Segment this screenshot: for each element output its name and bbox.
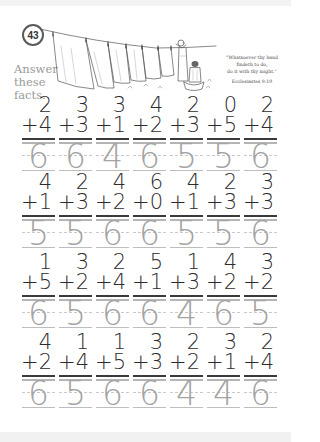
answer-tracing-digit: 5 [61, 379, 90, 409]
plus-sign: + [132, 350, 150, 374]
addend-bottom-value: 5 [39, 270, 52, 294]
addend-bottom: +1 [206, 352, 237, 373]
answer-tracing-digit: 6 [24, 379, 53, 409]
rope-icon [40, 29, 216, 48]
addend-bottom-value: 2 [76, 270, 89, 294]
addend-bottom-value: 2 [261, 270, 274, 294]
quote-line: “Whatsoever thy hand [216, 54, 288, 61]
addition-problem: 2+35 [207, 172, 237, 250]
answer-tracing-digit: 6 [61, 142, 90, 172]
plus-sign: + [21, 350, 39, 374]
addition-problem: 2+46 [244, 95, 274, 173]
addend-bottom: +0 [132, 192, 163, 213]
addition-problem: 4+26 [22, 332, 52, 410]
addend-bottom: +1 [95, 115, 126, 136]
addition-problem: 3+36 [133, 332, 163, 410]
addition-problem: 1+56 [96, 332, 126, 410]
answer-tracing-digit: 6 [98, 379, 127, 409]
addition-problem: 4+26 [96, 172, 126, 250]
plus-sign: + [58, 270, 76, 294]
addition-problem: 2+35 [170, 95, 200, 173]
quote-line: do it with thy might.” [216, 68, 288, 75]
answer-tracing-digit: 5 [209, 142, 238, 172]
addition-problem: 2+46 [244, 332, 274, 410]
plus-sign: + [206, 350, 224, 374]
plus-sign: + [206, 190, 224, 214]
plus-sign: + [243, 350, 261, 374]
plus-sign: + [58, 190, 76, 214]
addend-bottom: +4 [21, 115, 52, 136]
addend-bottom: +3 [206, 192, 237, 213]
addend-bottom-value: 2 [113, 190, 126, 214]
answer-tracing-digit: 6 [209, 299, 238, 329]
addend-bottom: +2 [21, 352, 52, 373]
addend-bottom-value: 2 [150, 113, 163, 137]
addend-bottom: +3 [58, 115, 89, 136]
plus-sign: + [95, 350, 113, 374]
answer-tracing-digit: 6 [135, 219, 164, 249]
addend-bottom-value: 1 [187, 190, 200, 214]
addend-bottom-value: 3 [224, 190, 237, 214]
addend-bottom: +4 [58, 352, 89, 373]
addend-bottom-value: 5 [113, 350, 126, 374]
scripture-quote: “Whatsoever thy hand findeth to do, do i… [216, 54, 288, 85]
addend-bottom: +3 [58, 192, 89, 213]
addend-bottom-value: 4 [261, 113, 274, 137]
addend-bottom: +5 [95, 352, 126, 373]
quote-line: findeth to do, [216, 61, 288, 68]
answer-tracing-digit: 6 [246, 379, 275, 409]
addition-problem: 4+26 [133, 95, 163, 173]
addend-bottom-value: 4 [76, 350, 89, 374]
answer-tracing-digit: 4 [209, 379, 238, 409]
addend-bottom: +5 [21, 272, 52, 293]
answer-tracing-digit: 5 [172, 219, 201, 249]
addend-bottom-value: 4 [39, 113, 52, 137]
plus-sign: + [58, 350, 76, 374]
addition-problem: 2+35 [59, 172, 89, 250]
addend-bottom: +3 [169, 115, 200, 136]
addend-bottom: +5 [206, 115, 237, 136]
addend-bottom: +2 [243, 272, 274, 293]
plus-sign: + [95, 113, 113, 137]
answer-tracing-digit: 6 [135, 142, 164, 172]
plus-sign: + [21, 190, 39, 214]
addend-bottom-value: 3 [150, 350, 163, 374]
addend-bottom: +4 [243, 115, 274, 136]
answer-tracing-digit: 6 [135, 379, 164, 409]
addend-bottom: +2 [58, 272, 89, 293]
addend-bottom-value: 0 [150, 190, 163, 214]
addition-problem: 1+34 [170, 252, 200, 330]
answer-tracing-digit: 5 [209, 219, 238, 249]
addend-bottom-value: 1 [113, 113, 126, 137]
plus-sign: + [206, 113, 224, 137]
clothesline-illustration [36, 26, 218, 96]
addend-bottom-value: 3 [76, 113, 89, 137]
plus-sign: + [132, 190, 150, 214]
answer-tracing-digit: 4 [98, 142, 127, 172]
addition-problem: 6+06 [133, 172, 163, 250]
plus-sign: + [21, 113, 39, 137]
addition-problem: 2+46 [96, 252, 126, 330]
addend-bottom-value: 2 [187, 350, 200, 374]
addition-problem: 2+24 [170, 332, 200, 410]
addition-problem: 2+46 [22, 95, 52, 173]
answer-tracing-digit: 6 [98, 299, 127, 329]
addend-bottom: +4 [95, 272, 126, 293]
addition-problem: 3+36 [244, 172, 274, 250]
answer-tracing-digit: 6 [98, 219, 127, 249]
plus-sign: + [132, 270, 150, 294]
page-number-badge: 43 [22, 24, 44, 46]
addend-bottom-value: 2 [39, 350, 52, 374]
child-figure-icon [189, 61, 201, 82]
answer-tracing-digit: 5 [61, 299, 90, 329]
plus-sign: + [95, 270, 113, 294]
addition-problem: 1+56 [22, 252, 52, 330]
addend-bottom: +2 [95, 192, 126, 213]
addend-bottom-value: 3 [187, 113, 200, 137]
answer-tracing-digit: 6 [24, 142, 53, 172]
addition-problem: 1+45 [59, 332, 89, 410]
addition-problem: 0+55 [207, 95, 237, 173]
addition-problem: 4+15 [22, 172, 52, 250]
addend-bottom-value: 5 [224, 113, 237, 137]
addend-bottom-value: 3 [187, 270, 200, 294]
